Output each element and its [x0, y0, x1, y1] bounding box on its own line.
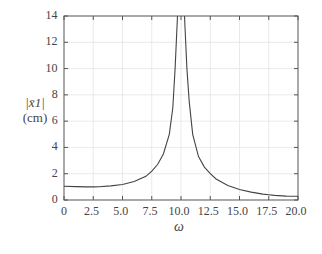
x-tick-label: 5.0	[113, 204, 128, 219]
grid-lines	[64, 16, 298, 200]
y-tick-label: 12	[46, 34, 58, 49]
y-tick-label: 10	[46, 61, 58, 76]
x-tick-label: 20.0	[286, 204, 307, 219]
x-tick-label: 17.5	[256, 204, 277, 219]
x-axis-label: ω	[174, 219, 184, 235]
y-tick-label: 2	[52, 166, 58, 181]
x-tick-label: 10.0	[169, 204, 190, 219]
y-axis-label-unit: (cm)	[10, 110, 60, 125]
x-tick-label: 0	[61, 204, 67, 219]
y-axis-label-symbol: |x̄1|	[10, 95, 60, 110]
x-tick-label: 12.5	[198, 204, 219, 219]
x-tick-label: 15.0	[227, 204, 248, 219]
x-tick-label: 7.5	[142, 204, 157, 219]
x-tick-label: 2.5	[84, 204, 99, 219]
y-tick-label: 4	[52, 139, 58, 154]
y-tick-label: 0	[52, 192, 58, 207]
y-tick-label: 14	[46, 8, 58, 23]
y-axis-label: |x̄1| (cm)	[10, 95, 60, 125]
